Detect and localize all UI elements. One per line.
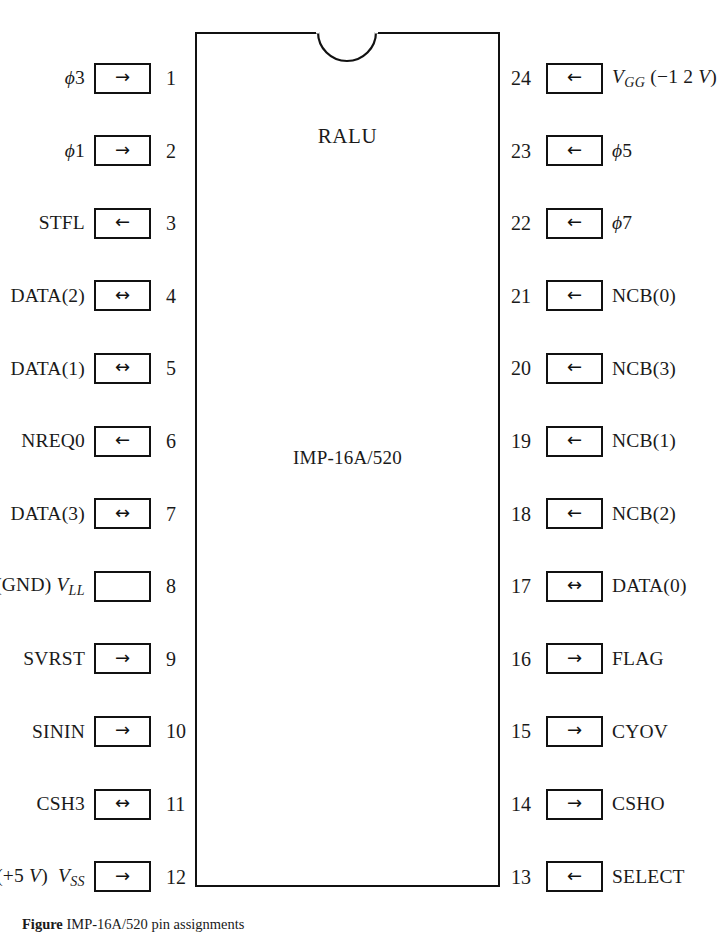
pin-signal-label-14: CSHO: [612, 794, 665, 814]
figure-caption: Figure IMP-16A/520 pin assignments: [22, 915, 692, 933]
pin-box-13: ←: [546, 861, 603, 892]
pin-signal-label-19: NCB(1): [612, 431, 676, 451]
pin-box-19: ←: [546, 426, 603, 457]
pin-box-5: ↔: [94, 353, 151, 384]
pin-box-15: →: [546, 716, 603, 747]
pin-row-1: ϕ3→1: [0, 61, 200, 95]
pin-signal-label-3: STFL: [39, 213, 85, 233]
pin-signal-label-21: NCB(0): [612, 286, 676, 306]
pin-number-22: 22: [497, 213, 531, 233]
pin-row-5: DATA(1)↔5: [0, 351, 200, 385]
pin-row-18: 18←NCB(2): [497, 497, 715, 531]
pin-direction-arrow-icon-2: →: [115, 141, 130, 159]
pin-number-6: 6: [166, 431, 200, 451]
pin-signal-label-5: DATA(1): [10, 359, 85, 379]
chip-title: RALU: [195, 124, 500, 149]
pin-direction-arrow-icon-24: ←: [567, 68, 582, 86]
pin-number-8: 8: [166, 576, 200, 596]
pin-signal-label-8: (GND) VLL: [0, 575, 85, 597]
pin-number-1: 1: [166, 68, 200, 88]
pin-box-9: →: [94, 643, 151, 674]
pin-direction-arrow-icon-7: ↔: [115, 504, 130, 522]
pin-row-20: 20←NCB(3): [497, 351, 715, 385]
pin-signal-label-23: ϕ5: [612, 141, 632, 161]
pin-signal-label-9: SVRST: [23, 649, 85, 669]
pin-number-10: 10: [166, 721, 200, 741]
pin-box-18: ←: [546, 498, 603, 529]
pin-box-17: ↔: [546, 571, 603, 602]
pin-row-17: 17↔DATA(0): [497, 569, 715, 603]
pin-number-20: 20: [497, 358, 531, 378]
pin-box-3: ←: [94, 208, 151, 239]
pin-number-19: 19: [497, 431, 531, 451]
pin-row-22: 22←ϕ7: [497, 206, 715, 240]
pin-signal-label-1: ϕ3: [65, 68, 85, 88]
pin-box-14: →: [546, 789, 603, 820]
pin-signal-label-17: DATA(0): [612, 576, 687, 596]
pin-direction-arrow-icon-15: →: [567, 721, 582, 739]
pin-signal-label-15: CYOV: [612, 722, 668, 742]
pin-signal-label-16: FLAG: [612, 649, 664, 669]
pin-box-20: ←: [546, 353, 603, 384]
pin-row-13: 13←SELECT: [497, 860, 715, 894]
pin-number-17: 17: [497, 576, 531, 596]
pin-row-3: STFL←3: [0, 206, 200, 240]
pin-box-1: →: [94, 63, 151, 94]
pin-row-4: DATA(2)↔4: [0, 279, 200, 313]
pin-signal-label-10: SININ: [32, 722, 85, 742]
pin-direction-arrow-icon-12: →: [115, 867, 130, 885]
chip-part-number: IMP-16A/520: [195, 447, 500, 469]
pin-row-8: (GND) VLL8: [0, 569, 200, 603]
pin-row-23: 23←ϕ5: [497, 134, 715, 168]
pin-row-15: 15→CYOV: [497, 714, 715, 748]
pin-box-21: ←: [546, 280, 603, 311]
pin-box-16: →: [546, 643, 603, 674]
pin-number-13: 13: [497, 867, 531, 887]
pin-row-10: SININ→10: [0, 714, 200, 748]
pin-number-3: 3: [166, 213, 200, 233]
pin-row-21: 21←NCB(0): [497, 279, 715, 313]
pin-signal-label-12: (+5 V) VSS: [0, 866, 85, 888]
pin-box-8: [94, 571, 151, 602]
pin-direction-arrow-icon-17: ↔: [567, 576, 582, 594]
pin-box-12: →: [94, 861, 151, 892]
pin-direction-arrow-icon-5: ↔: [115, 358, 130, 376]
pin-row-14: 14→CSHO: [497, 787, 715, 821]
pin-number-4: 4: [166, 286, 200, 306]
pin-direction-arrow-icon-22: ←: [567, 213, 582, 231]
pin-direction-arrow-icon-18: ←: [567, 504, 582, 522]
pin-direction-arrow-icon-3: ←: [115, 213, 130, 231]
pin-number-2: 2: [166, 141, 200, 161]
chip-notch-icon: [316, 31, 378, 64]
pin-direction-arrow-icon-16: →: [567, 649, 582, 667]
pin-box-4: ↔: [94, 280, 151, 311]
pin-box-7: ↔: [94, 498, 151, 529]
pin-direction-arrow-icon-21: ←: [567, 286, 582, 304]
pin-signal-label-20: NCB(3): [612, 359, 676, 379]
pin-box-11: ↔: [94, 789, 151, 820]
pin-direction-arrow-icon-20: ←: [567, 358, 582, 376]
pin-number-9: 9: [166, 649, 200, 669]
pin-signal-label-7: DATA(3): [10, 504, 85, 524]
pin-box-22: ←: [546, 208, 603, 239]
pin-number-23: 23: [497, 141, 531, 161]
pin-row-19: 19←NCB(1): [497, 424, 715, 458]
pin-box-2: →: [94, 135, 151, 166]
pin-signal-label-4: DATA(2): [10, 286, 85, 306]
pin-direction-arrow-icon-10: →: [115, 721, 130, 739]
pin-number-12: 12: [166, 867, 200, 887]
pin-number-5: 5: [166, 358, 200, 378]
pin-row-16: 16→FLAG: [497, 642, 715, 676]
pin-number-14: 14: [497, 794, 531, 814]
pin-direction-arrow-icon-14: →: [567, 794, 582, 812]
pin-row-2: ϕ1→2: [0, 134, 200, 168]
pin-signal-label-18: NCB(2): [612, 504, 676, 524]
pin-row-9: SVRST→9: [0, 642, 200, 676]
pin-signal-label-6: NREQ0: [21, 431, 85, 451]
pin-direction-arrow-icon-1: →: [115, 68, 130, 86]
pin-number-11: 11: [166, 794, 200, 814]
pin-direction-arrow-icon-23: ←: [567, 141, 582, 159]
pin-row-12: (+5 V) VSS→12: [0, 860, 200, 894]
pin-signal-label-13: SELECT: [612, 867, 685, 887]
